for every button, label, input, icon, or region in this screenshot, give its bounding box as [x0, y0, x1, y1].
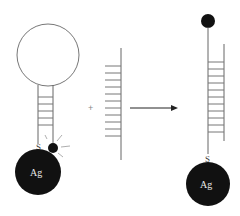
- right-hybridized-probe: S Ag: [186, 14, 230, 206]
- left-hairpin-probe: S Ag: [15, 24, 79, 195]
- hairpin-loop: [17, 24, 79, 86]
- reaction-arrow-icon: [130, 105, 178, 111]
- quencher-dot-separated: [201, 14, 215, 28]
- plus-sign: +: [88, 103, 93, 113]
- beacon-hybridization-diagram: S Ag +: [0, 0, 240, 216]
- ag-label-right: Ag: [200, 179, 212, 190]
- stem-rungs: [38, 97, 53, 125]
- duplex-rungs: [208, 62, 224, 132]
- ag-label-left: Ag: [30, 167, 42, 178]
- target-rungs: [105, 66, 121, 136]
- target-strand: [105, 48, 121, 160]
